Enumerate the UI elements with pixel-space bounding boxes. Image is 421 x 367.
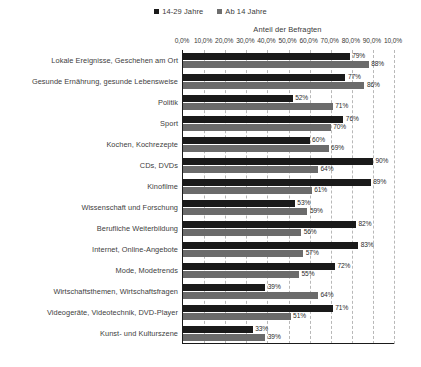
x-axis-tick-label: 10,0%	[194, 37, 212, 44]
category-label: Berufliche Weiterbildung	[97, 224, 178, 233]
category-row: Kunst- und Kulturszene	[0, 323, 178, 344]
bar-value-label: 77%	[348, 73, 361, 80]
category-label: Kinofilme	[147, 182, 178, 191]
category-label: Sport	[160, 119, 178, 128]
bar-chart: 14-29 Jahre Ab 14 Jahre Anteil der Befra…	[0, 0, 421, 367]
bar-value-label: 86%	[367, 81, 380, 88]
bar-14-29-jahre	[183, 242, 358, 249]
bar-14-29-jahre	[183, 74, 345, 81]
bar-value-label: 79%	[352, 52, 365, 59]
bar-value-label: 57%	[306, 249, 319, 256]
category-label: Kunst- und Kulturszene	[100, 329, 178, 338]
bar-ab-14-jahre	[183, 166, 318, 173]
category-row: Sport	[0, 113, 178, 134]
x-axis-tick-label: 0,0%	[175, 37, 190, 44]
bar-value-label: 52%	[295, 94, 308, 101]
bar-group: 77%86%	[183, 71, 394, 92]
bar-group: 53%59%	[183, 197, 394, 218]
bar-ab-14-jahre	[183, 292, 318, 299]
category-row: Internet, Online-Angebote	[0, 239, 178, 260]
category-row: Gesunde Ernährung, gesunde Lebensweise	[0, 71, 178, 92]
bar-ab-14-jahre	[183, 103, 333, 110]
category-row: Wirtschaftsthemen, Wirtschaftsfragen	[0, 281, 178, 302]
bar-14-29-jahre	[183, 53, 350, 60]
bar-group: 83%57%	[183, 239, 394, 260]
bar-ab-14-jahre	[183, 82, 364, 89]
bar-group: 76%70%	[183, 113, 394, 134]
plot-area: 79%88%77%86%52%71%76%70%60%69%90%64%89%6…	[182, 50, 393, 344]
bar-value-label: 69%	[331, 144, 344, 151]
bar-ab-14-jahre	[183, 208, 307, 215]
bar-14-29-jahre	[183, 179, 371, 186]
bar-group: 60%69%	[183, 134, 394, 155]
bar-value-label: 53%	[297, 199, 310, 206]
bar-group: 71%51%	[183, 302, 394, 323]
category-row: Berufliche Weiterbildung	[0, 218, 178, 239]
bar-value-label: 71%	[335, 304, 348, 311]
bar-14-29-jahre	[183, 200, 295, 207]
category-row: Kinofilme	[0, 176, 178, 197]
bar-group: 33%39%	[183, 323, 394, 344]
chart-legend: 14-29 Jahre Ab 14 Jahre	[0, 7, 421, 16]
x-axis-tick-label: 70,0%	[321, 37, 339, 44]
category-label: Videogeräte, Videotechnik, DVD-Player	[47, 308, 178, 317]
category-label: Lokale Ereignisse, Geschehen am Ort	[51, 56, 178, 65]
bar-value-label: 39%	[268, 283, 281, 290]
legend-swatch-icon	[217, 9, 222, 14]
x-axis-tick-label: 80,0%	[342, 37, 360, 44]
bar-group: 39%64%	[183, 281, 394, 302]
bar-ab-14-jahre	[183, 145, 329, 152]
bar-14-29-jahre	[183, 284, 265, 291]
bar-ab-14-jahre	[183, 334, 265, 341]
bar-group: 82%56%	[183, 218, 394, 239]
bar-14-29-jahre	[183, 305, 333, 312]
bar-value-label: 88%	[371, 60, 384, 67]
bar-value-label: 51%	[293, 312, 306, 319]
legend-label: 14-29 Jahre	[162, 7, 203, 16]
bar-group: 89%61%	[183, 176, 394, 197]
bar-value-label: 90%	[375, 157, 388, 164]
category-label: Wissenschaft und Forschung	[81, 203, 178, 212]
bar-14-29-jahre	[183, 116, 343, 123]
category-label: Internet, Online-Angebote	[92, 245, 178, 254]
bar-value-label: 55%	[302, 270, 315, 277]
bar-ab-14-jahre	[183, 61, 369, 68]
bar-14-29-jahre	[183, 263, 335, 270]
bar-value-label: 83%	[361, 241, 374, 248]
bar-14-29-jahre	[183, 221, 356, 228]
legend-swatch-icon	[154, 9, 159, 14]
bar-value-label: 89%	[373, 178, 386, 185]
bar-value-label: 72%	[337, 262, 350, 269]
bar-value-label: 59%	[310, 207, 323, 214]
bar-value-label: 64%	[321, 165, 334, 172]
y-axis-category-labels: Lokale Ereignisse, Geschehen am OrtGesun…	[0, 50, 178, 344]
bar-value-label: 60%	[312, 136, 325, 143]
category-label: Kochen, Kochrezepte	[106, 140, 178, 149]
legend-label: Ab 14 Jahre	[225, 7, 267, 16]
bar-value-label: 61%	[314, 186, 327, 193]
bar-group: 72%55%	[183, 260, 394, 281]
bar-group: 52%71%	[183, 92, 394, 113]
bar-value-label: 82%	[359, 220, 372, 227]
x-axis-tick-label: 60,0%	[299, 37, 317, 44]
category-row: Mode, Modetrends	[0, 260, 178, 281]
bar-14-29-jahre	[183, 95, 293, 102]
x-axis-tick-label: 30,0%	[236, 37, 254, 44]
category-label: Mode, Modetrends	[116, 266, 178, 275]
x-axis-tick-label: 10,0%	[384, 37, 402, 44]
bar-14-29-jahre	[183, 158, 373, 165]
bar-14-29-jahre	[183, 326, 253, 333]
category-label: Gesunde Ernährung, gesunde Lebensweise	[32, 77, 178, 86]
category-label: Politik	[158, 98, 178, 107]
x-axis-tick-label: 40,0%	[257, 37, 275, 44]
bar-14-29-jahre	[183, 137, 310, 144]
category-row: Kochen, Kochrezepte	[0, 134, 178, 155]
bar-value-label: 33%	[255, 325, 268, 332]
category-label: Wirtschaftsthemen, Wirtschaftsfragen	[53, 287, 178, 296]
gridline	[394, 50, 396, 344]
bar-ab-14-jahre	[183, 250, 303, 257]
bar-value-label: 64%	[321, 291, 334, 298]
x-axis-tick-label: 50,0%	[278, 37, 296, 44]
category-row: CDs, DVDs	[0, 155, 178, 176]
x-axis-title: Anteil der Befragten	[182, 25, 393, 34]
